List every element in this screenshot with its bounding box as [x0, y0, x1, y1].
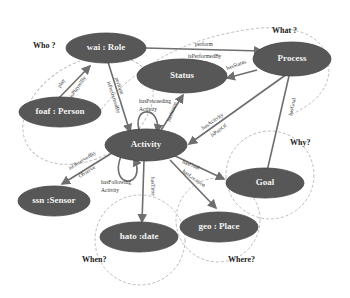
node-place[interactable]: geo : Place — [180, 212, 258, 242]
node-role[interactable]: wai : Role — [66, 33, 146, 63]
edge-hasTime — [142, 160, 144, 222]
edge-label-hasTime: hasTime — [150, 177, 157, 197]
node-activity[interactable]: Activity — [105, 129, 187, 161]
node-status-label: Status — [170, 70, 195, 80]
node-sensor-label: ssn :Sensor — [32, 195, 75, 205]
edge-label-hasFollowing-activity: Activity — [101, 187, 119, 193]
edge-label-observe: Observe — [77, 164, 96, 179]
node-person-label: foaf : Person — [36, 106, 85, 116]
question-when: When? — [82, 255, 106, 264]
edge-label-hasProceeding-activity: Activity — [139, 106, 157, 112]
edge-label-hasGoal-process: hasGoal — [287, 97, 297, 116]
question-where: Where? — [228, 255, 255, 264]
node-role-label: wai : Role — [87, 42, 126, 52]
node-date-label: hato :date — [120, 231, 159, 241]
node-process[interactable]: Process — [253, 42, 331, 76]
node-place-label: geo : Place — [199, 221, 240, 231]
edge-label-hasProceeding: hasProceeding — [139, 98, 171, 104]
edge-label-hasStatus: hasStatus — [225, 58, 247, 71]
question-what: What ? — [272, 26, 297, 35]
node-activity-label: Activity — [131, 139, 162, 149]
edge-hasGoal-process — [265, 76, 289, 180]
node-date[interactable]: hato :date — [100, 222, 178, 252]
edge-label-play: play — [56, 77, 66, 88]
node-person[interactable]: foaf : Person — [19, 97, 101, 127]
ontology-diagram: perform isPerformedBy play isPlayedBy pe… — [0, 0, 350, 298]
node-goal[interactable]: Goal — [226, 168, 304, 198]
node-sensor[interactable]: ssn :Sensor — [18, 186, 90, 216]
edge-perform — [145, 48, 262, 51]
question-why: Why? — [290, 138, 310, 147]
node-goal-label: Goal — [256, 177, 275, 187]
edge-label-hasFollowing: hasFollowing — [101, 179, 131, 185]
question-who: Who ? — [33, 41, 55, 50]
edge-label-isPerformedBy: isPerformedBy — [188, 53, 222, 59]
edge-hasStatus — [227, 70, 257, 78]
edge-label-perform: perform — [195, 41, 213, 47]
node-status[interactable]: Status — [137, 59, 227, 93]
node-process-label: Process — [278, 53, 307, 63]
